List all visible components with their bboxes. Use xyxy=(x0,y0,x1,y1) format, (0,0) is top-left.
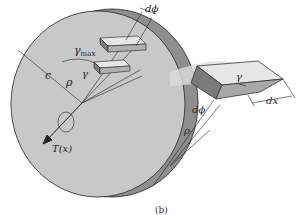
radius-c-label: c xyxy=(45,69,51,82)
torsion-diagram: dϕ γmax c ρ γ T(x) γ dx dϕ ρ (b) xyxy=(0,0,304,215)
rho-bottom-label: ρ xyxy=(183,125,190,136)
dphi-bottom-label: dϕ xyxy=(192,104,205,115)
figure-caption: (b) xyxy=(155,205,168,215)
disk-face xyxy=(11,11,185,197)
dphi-top-label: dϕ xyxy=(145,3,158,14)
dx-label: dx xyxy=(266,95,278,106)
gamma-element-label: γ xyxy=(236,71,242,82)
torque-label: T(x) xyxy=(52,143,72,154)
rho-label: ρ xyxy=(65,76,73,89)
gamma-label: γ xyxy=(82,68,88,79)
outer-element xyxy=(100,36,146,52)
